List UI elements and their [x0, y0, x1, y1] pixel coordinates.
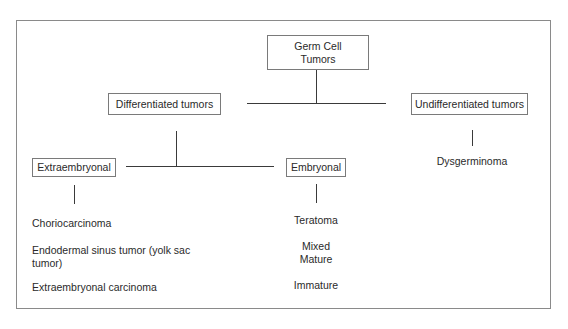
connector-extraembryonal-down: [74, 185, 75, 204]
leaf-dysgerminoma: Dysgerminoma: [437, 155, 508, 168]
node-label: Undifferentiated tumors: [415, 98, 524, 111]
connector-differentiated-down: [176, 131, 177, 166]
connector-level2-horizontal: [126, 166, 274, 167]
leaf-mature: Mature: [300, 253, 333, 266]
node-label: Germ Cell Tumors: [294, 40, 341, 66]
connector-undifferentiated-down: [472, 130, 473, 146]
node-embryonal: Embryonal: [286, 158, 346, 177]
connector-root-down: [316, 70, 317, 103]
connector-embryonal-down: [316, 184, 317, 203]
node-label: Extraembryonal: [37, 161, 111, 174]
leaf-teratoma: Teratoma: [294, 214, 338, 227]
node-label: Differentiated tumors: [116, 98, 213, 111]
leaf-mixed: Mixed: [302, 240, 330, 253]
node-extraembryonal: Extraembryonal: [32, 158, 116, 177]
leaf-endodermal-sinus-tumor: Endodermal sinus tumor (yolk sac tumor): [32, 244, 197, 270]
node-undifferentiated-tumors: Undifferentiated tumors: [411, 93, 528, 115]
node-germ-cell-tumors: Germ Cell Tumors: [267, 35, 369, 70]
leaf-choriocarcinoma: Choriocarcinoma: [32, 217, 111, 230]
node-differentiated-tumors: Differentiated tumors: [108, 93, 221, 115]
connector-level1-horizontal: [247, 103, 386, 104]
leaf-extraembryonal-carcinoma: Extraembryonal carcinoma: [32, 281, 157, 294]
leaf-immature: Immature: [294, 279, 338, 292]
node-label: Embryonal: [291, 161, 341, 174]
